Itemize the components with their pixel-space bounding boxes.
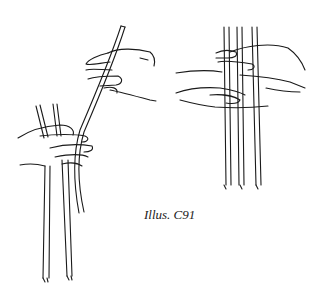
- illustration-page: Illus. C91: [0, 0, 320, 299]
- left-figure: [18, 26, 156, 282]
- figure-caption: Illus. C91: [144, 207, 195, 223]
- weaving-illustration: [0, 0, 320, 299]
- right-figure: [176, 27, 305, 189]
